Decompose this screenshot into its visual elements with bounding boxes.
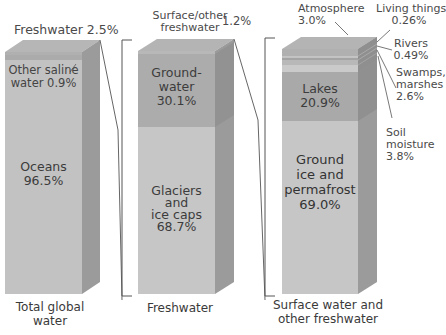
glaciers-label-line4: 68.7% xyxy=(138,221,215,233)
groundwater-label-line1: Ground- xyxy=(138,66,215,80)
bar1-side-face xyxy=(82,40,100,294)
soil-moisture-label: Soil moisture 3.8% xyxy=(386,127,435,163)
soil-moisture-label-line3: 3.8% xyxy=(386,151,435,163)
leader-rivers xyxy=(377,46,392,50)
groundwater-label-line2: water xyxy=(138,80,215,94)
swamps-label: Swamps, marshes 2.6% xyxy=(396,67,446,103)
bar2-segment-surface-other xyxy=(138,51,215,54)
bar3-segment-living-things xyxy=(282,56,358,58)
oceans-label-line2: 96.5% xyxy=(5,174,82,188)
bar3-segment-atmosphere xyxy=(282,49,358,56)
leader-living-things xyxy=(377,30,390,42)
glaciers-label: Glaciers and ice caps 68.7% xyxy=(138,185,215,233)
connector-line-2a xyxy=(234,39,258,120)
ground-ice-label-line3: permafrost xyxy=(280,182,360,197)
bar3-segment-rivers xyxy=(282,58,358,61)
ground-ice-label-line2: ice and xyxy=(280,167,360,182)
ground-ice-label-line1: Ground xyxy=(280,152,360,167)
other-saline-label: Other saline water 0.9% xyxy=(5,64,82,90)
bar3-segment-swamps xyxy=(282,60,358,65)
lakes-label-line2: 20.9% xyxy=(282,96,358,110)
other-saline-label-line2: water 0.9% xyxy=(5,77,82,90)
caption-total-global-water: Total global water xyxy=(0,300,100,328)
connector-line-2b xyxy=(258,120,265,300)
caption-surface-water: Surface water and other freshwater xyxy=(268,298,388,326)
freshwater-share-label: Freshwater 2.5% xyxy=(14,23,119,36)
groundwater-label: Ground- water 30.1% xyxy=(138,66,215,108)
living-things-label-line2: 0.26% xyxy=(376,15,442,27)
lakes-label-line1: Lakes xyxy=(282,82,358,96)
swamps-label-line3: 2.6% xyxy=(396,91,446,103)
caption-surface-line1: Surface water and xyxy=(268,298,388,312)
ground-ice-label: Ground ice and permafrost 69.0% xyxy=(280,152,360,212)
connector-line-1a xyxy=(100,40,118,130)
atmosphere-label: Atmosphere 3.0% xyxy=(298,3,365,27)
groundwater-label-line3: 30.1% xyxy=(138,94,215,108)
ground-ice-label-line4: 69.0% xyxy=(280,197,360,212)
surface-other-value: 1.2% xyxy=(222,15,251,28)
bar3-segment-soil-moisture xyxy=(282,65,358,72)
rivers-label: Rivers 0.49% xyxy=(393,38,429,62)
caption-surface-line2: other freshwater xyxy=(268,312,388,326)
bracket-1 xyxy=(122,40,132,296)
lakes-label: Lakes 20.9% xyxy=(282,82,358,110)
living-things-label: Living things 0.26% xyxy=(376,3,442,27)
bar1-segment-other-saline xyxy=(5,55,82,60)
bar1-segment-freshwater xyxy=(5,52,82,55)
caption-total-line2: water xyxy=(0,314,100,328)
caption-total-line1: Total global xyxy=(0,300,100,314)
connector-line-1b xyxy=(118,130,122,300)
bar2-side-groundwater xyxy=(215,42,234,127)
caption-freshwater: Freshwater xyxy=(130,301,230,315)
bracket-2 xyxy=(265,38,275,296)
rivers-label-line2: 0.49% xyxy=(393,50,429,62)
atmosphere-label-line2: 3.0% xyxy=(298,15,365,27)
oceans-label: Oceans 96.5% xyxy=(5,160,82,188)
oceans-label-line1: Oceans xyxy=(5,160,82,174)
